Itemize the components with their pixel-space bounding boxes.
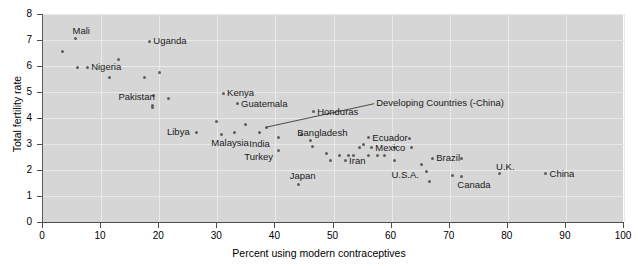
y-tick-mark-6 — [37, 66, 42, 67]
x-tick-mark-10 — [100, 223, 101, 228]
x-tick-label-90: 90 — [550, 231, 580, 241]
point-label-mali: Mali — [73, 26, 90, 36]
x-tick-label-50: 50 — [318, 231, 348, 241]
gridline-y-7 — [43, 40, 624, 41]
point-label-nigeria: Nigeria — [91, 62, 121, 72]
x-tick-mark-50 — [333, 223, 334, 228]
point-label-iran: Iran — [349, 156, 365, 166]
x-tick-label-40: 40 — [259, 231, 289, 241]
fertility-contraceptive-scatter-figure: MaliUgandaNigeriaPakistanKenyaGuatemalaH… — [0, 0, 638, 266]
plot-area — [42, 14, 623, 222]
data-point — [233, 131, 236, 134]
point-label-canada: Canada — [457, 180, 490, 190]
point-label-bangladesh: Bangladesh — [297, 128, 347, 138]
data-point — [428, 180, 431, 183]
data-point-turkey — [277, 149, 280, 152]
point-label-kenya: Kenya — [227, 88, 254, 98]
data-point — [258, 131, 261, 134]
y-tick-mark-7 — [37, 40, 42, 41]
data-point — [143, 76, 146, 79]
x-tick-label-60: 60 — [376, 231, 406, 241]
y-tick-label-0: 0 — [14, 217, 32, 227]
y-tick-label-7: 7 — [14, 35, 32, 45]
data-point — [311, 145, 314, 148]
data-point — [244, 123, 247, 126]
x-tick-mark-30 — [216, 223, 217, 228]
data-point — [408, 137, 411, 140]
x-tick-label-20: 20 — [143, 231, 173, 241]
point-label-brazil: Brazil — [436, 153, 460, 163]
x-axis-title: Percent using modern contraceptives — [0, 247, 638, 259]
point-label-mexico: Mexico — [375, 143, 405, 153]
point-label-china: China — [550, 169, 575, 179]
data-point-ecuador — [367, 136, 370, 139]
point-label-uk: U.K. — [496, 162, 514, 172]
y-tick-mark-3 — [37, 144, 42, 145]
gridline-y-8 — [43, 14, 624, 15]
x-tick-mark-20 — [158, 223, 159, 228]
data-point-nigeria — [86, 66, 89, 69]
point-label-turkey: Turkey — [244, 152, 273, 162]
gridline-x-100 — [624, 14, 625, 222]
y-tick-label-1: 1 — [14, 191, 32, 201]
data-point-india — [277, 136, 280, 139]
x-tick-label-10: 10 — [85, 231, 115, 241]
gridline-y-6 — [43, 66, 624, 67]
x-tick-label-30: 30 — [201, 231, 231, 241]
x-tick-label-0: 0 — [27, 231, 57, 241]
y-tick-mark-1 — [37, 196, 42, 197]
data-point-uganda — [148, 40, 151, 43]
point-label-malaysia: Malaysia — [211, 138, 249, 148]
data-point-brazil — [431, 157, 434, 160]
data-point-kenya — [222, 92, 225, 95]
x-tick-label-80: 80 — [492, 231, 522, 241]
data-point-malaysia — [220, 133, 223, 136]
data-point — [61, 50, 64, 53]
data-point — [362, 143, 365, 146]
x-tick-label-70: 70 — [434, 231, 464, 241]
data-point-china — [544, 172, 547, 175]
data-point — [376, 154, 379, 157]
data-point — [329, 159, 332, 162]
data-point — [151, 106, 154, 109]
data-point-canada — [460, 175, 463, 178]
data-point-libya — [195, 131, 198, 134]
annotation-developing-countries: Developing Countries (-China) — [376, 98, 504, 108]
point-label-usa: U.S.A. — [391, 170, 418, 180]
data-point — [167, 97, 170, 100]
data-point — [76, 66, 79, 69]
data-point-guatemala — [236, 102, 239, 105]
data-point-usa — [425, 170, 428, 173]
y-tick-mark-2 — [37, 170, 42, 171]
data-point — [325, 152, 328, 155]
x-tick-mark-70 — [449, 223, 450, 228]
x-tick-label-100: 100 — [608, 231, 638, 241]
x-tick-mark-80 — [507, 223, 508, 228]
point-label-japan: Japan — [290, 171, 316, 181]
data-point — [158, 71, 161, 74]
gridline-y-1 — [43, 196, 624, 197]
data-point — [367, 154, 370, 157]
point-label-honduras: Honduras — [317, 107, 358, 117]
data-point — [338, 154, 341, 157]
data-point — [265, 126, 268, 129]
data-point — [393, 159, 396, 162]
data-point — [451, 174, 454, 177]
point-label-pakistan: Pakistan — [118, 92, 154, 102]
y-tick-mark-4 — [37, 118, 42, 119]
data-point-uk — [498, 172, 501, 175]
gridline-y-3 — [43, 144, 624, 145]
point-label-uganda: Uganda — [153, 36, 186, 46]
y-tick-label-8: 8 — [14, 9, 32, 19]
data-point — [410, 146, 413, 149]
point-label-libya: Libya — [167, 127, 190, 137]
data-point-iran — [344, 159, 347, 162]
data-point-honduras — [312, 110, 315, 113]
gridline-y-2 — [43, 170, 624, 171]
y-tick-mark-5 — [37, 92, 42, 93]
y-tick-mark-8 — [37, 14, 42, 15]
x-tick-mark-100 — [623, 223, 624, 228]
data-point — [358, 146, 361, 149]
data-point — [420, 163, 423, 166]
data-point — [108, 76, 111, 79]
